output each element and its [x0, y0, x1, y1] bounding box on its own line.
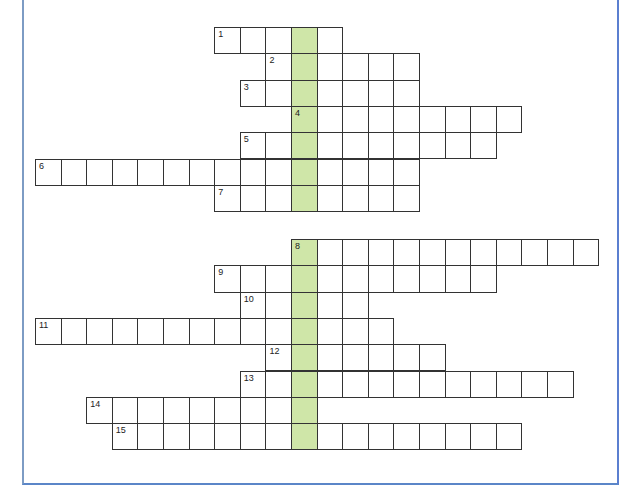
- crossword-cell[interactable]: [419, 423, 446, 450]
- crossword-cell[interactable]: [265, 423, 292, 450]
- crossword-cell[interactable]: [342, 132, 369, 159]
- crossword-cell[interactable]: [189, 423, 216, 450]
- crossword-cell[interactable]: [317, 159, 344, 186]
- crossword-cell[interactable]: 1: [214, 27, 241, 54]
- crossword-cell[interactable]: 5: [240, 132, 267, 159]
- crossword-cell[interactable]: 14: [86, 397, 113, 424]
- crossword-cell[interactable]: [137, 397, 164, 424]
- key-column-cell[interactable]: [291, 344, 318, 371]
- crossword-cell[interactable]: [265, 132, 292, 159]
- crossword-cell[interactable]: [393, 80, 420, 107]
- key-column-cell[interactable]: [291, 185, 318, 212]
- key-column-cell[interactable]: [291, 423, 318, 450]
- crossword-cell[interactable]: [393, 239, 420, 266]
- crossword-cell[interactable]: [342, 159, 369, 186]
- crossword-cell[interactable]: [393, 53, 420, 80]
- crossword-cell[interactable]: [189, 159, 216, 186]
- crossword-cell[interactable]: [496, 371, 523, 398]
- crossword-cell[interactable]: [61, 318, 88, 345]
- crossword-cell[interactable]: [317, 27, 344, 54]
- key-column-cell[interactable]: [291, 53, 318, 80]
- key-column-cell[interactable]: [291, 27, 318, 54]
- crossword-cell[interactable]: 12: [265, 344, 292, 371]
- crossword-cell[interactable]: [214, 318, 241, 345]
- key-column-cell[interactable]: [291, 292, 318, 319]
- crossword-cell[interactable]: [317, 80, 344, 107]
- crossword-cell[interactable]: [445, 371, 472, 398]
- crossword-cell[interactable]: [240, 423, 267, 450]
- crossword-cell[interactable]: [470, 239, 497, 266]
- crossword-cell[interactable]: 3: [240, 80, 267, 107]
- crossword-cell[interactable]: [393, 423, 420, 450]
- crossword-cell[interactable]: [265, 80, 292, 107]
- crossword-cell[interactable]: [368, 371, 395, 398]
- crossword-cell[interactable]: [317, 106, 344, 133]
- crossword-cell[interactable]: [163, 423, 190, 450]
- crossword-cell[interactable]: [470, 265, 497, 292]
- crossword-cell[interactable]: [342, 106, 369, 133]
- crossword-cell[interactable]: [112, 397, 139, 424]
- key-column-cell[interactable]: [291, 80, 318, 107]
- crossword-cell[interactable]: [419, 106, 446, 133]
- crossword-cell[interactable]: [137, 318, 164, 345]
- crossword-cell[interactable]: 15: [112, 423, 139, 450]
- crossword-cell[interactable]: [393, 344, 420, 371]
- crossword-cell[interactable]: [137, 423, 164, 450]
- crossword-cell[interactable]: [163, 159, 190, 186]
- crossword-cell[interactable]: [368, 265, 395, 292]
- key-column-cell[interactable]: [291, 371, 318, 398]
- crossword-cell[interactable]: [393, 106, 420, 133]
- crossword-cell[interactable]: [496, 423, 523, 450]
- key-column-cell[interactable]: 8: [291, 239, 318, 266]
- crossword-cell[interactable]: [419, 371, 446, 398]
- crossword-cell[interactable]: [265, 371, 292, 398]
- crossword-cell[interactable]: [393, 132, 420, 159]
- crossword-cell[interactable]: [393, 159, 420, 186]
- crossword-cell[interactable]: [393, 371, 420, 398]
- crossword-cell[interactable]: [214, 397, 241, 424]
- crossword-cell[interactable]: [189, 318, 216, 345]
- crossword-cell[interactable]: [342, 371, 369, 398]
- key-column-cell[interactable]: [291, 132, 318, 159]
- crossword-cell[interactable]: [86, 318, 113, 345]
- crossword-cell[interactable]: 10: [240, 292, 267, 319]
- crossword-cell[interactable]: [368, 318, 395, 345]
- crossword-cell[interactable]: [189, 397, 216, 424]
- crossword-cell[interactable]: [393, 265, 420, 292]
- crossword-cell[interactable]: [342, 185, 369, 212]
- crossword-cell[interactable]: [419, 344, 446, 371]
- crossword-cell[interactable]: [368, 344, 395, 371]
- crossword-cell[interactable]: [317, 371, 344, 398]
- crossword-cell[interactable]: [112, 318, 139, 345]
- crossword-cell[interactable]: [317, 53, 344, 80]
- crossword-cell[interactable]: [265, 159, 292, 186]
- crossword-cell[interactable]: [342, 344, 369, 371]
- crossword-cell[interactable]: [419, 265, 446, 292]
- crossword-cell[interactable]: [470, 371, 497, 398]
- crossword-cell[interactable]: [317, 423, 344, 450]
- crossword-cell[interactable]: [214, 423, 241, 450]
- crossword-cell[interactable]: 11: [35, 318, 62, 345]
- crossword-cell[interactable]: [317, 132, 344, 159]
- crossword-cell[interactable]: [342, 53, 369, 80]
- crossword-cell[interactable]: [496, 106, 523, 133]
- crossword-cell[interactable]: [265, 265, 292, 292]
- crossword-cell[interactable]: [265, 27, 292, 54]
- crossword-cell[interactable]: [342, 423, 369, 450]
- crossword-cell[interactable]: [342, 80, 369, 107]
- crossword-cell[interactable]: [342, 239, 369, 266]
- key-column-cell[interactable]: 4: [291, 106, 318, 133]
- crossword-cell[interactable]: [240, 265, 267, 292]
- key-column-cell[interactable]: [291, 265, 318, 292]
- crossword-cell[interactable]: [547, 371, 574, 398]
- key-column-cell[interactable]: [291, 159, 318, 186]
- crossword-cell[interactable]: [317, 239, 344, 266]
- crossword-cell[interactable]: [368, 423, 395, 450]
- crossword-cell[interactable]: [547, 239, 574, 266]
- crossword-cell[interactable]: [61, 159, 88, 186]
- crossword-cell[interactable]: [240, 27, 267, 54]
- crossword-cell[interactable]: [368, 80, 395, 107]
- crossword-cell[interactable]: [368, 239, 395, 266]
- crossword-cell[interactable]: [240, 185, 267, 212]
- crossword-cell[interactable]: [445, 239, 472, 266]
